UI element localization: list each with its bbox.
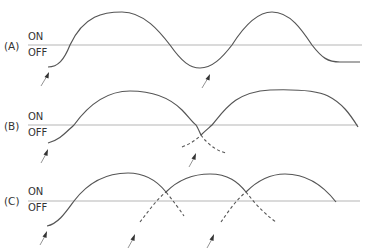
panel-c-wave-3-curve: [246, 174, 336, 202]
diagram-canvas: (A) ON OFF (B) ON OFF: [0, 0, 365, 252]
panel-c-arrow-2: [128, 234, 135, 248]
panel-b-on-label: ON: [28, 111, 43, 122]
panel-b-arrow-1: [41, 149, 48, 163]
arrow-head-icon: [210, 234, 215, 241]
panel-b-wave-1-dashed-tail: [201, 135, 226, 153]
arrow-head-icon: [192, 153, 197, 160]
panel-c-on-label: ON: [28, 186, 43, 197]
panel-c-label: (C): [4, 195, 20, 207]
panel-b-off-label: OFF: [28, 127, 48, 138]
arrow-head-icon: [44, 149, 49, 156]
panel-c-off-label: OFF: [28, 202, 48, 213]
diagram-figure: (A) ON OFF (B) ON OFF: [0, 0, 365, 252]
panel-a-wave-curve: [48, 12, 360, 68]
arrow-head-icon: [45, 72, 50, 79]
panel-c-wave-1-dashed-tail: [166, 192, 184, 216]
panel-a: (A) ON OFF: [4, 12, 362, 88]
panel-c: (C) ON OFF: [4, 173, 360, 248]
panel-b-wave-2-curve: [201, 90, 358, 135]
panel-a-label: (A): [4, 40, 19, 52]
panel-c-arrow-3: [207, 234, 214, 248]
panel-b-wave-2-dashed-rise: [182, 135, 201, 147]
panel-c-arrow-1: [40, 231, 47, 245]
panel-a-off-label: OFF: [28, 47, 48, 58]
arrow-head-icon: [131, 234, 136, 241]
panel-b-wave-1-curve: [48, 91, 201, 143]
panel-a-on-label: ON: [28, 31, 43, 42]
panel-b: (B) ON OFF: [4, 90, 358, 167]
panel-c-wave-2-dashed-tail: [246, 192, 276, 222]
panel-c-wave-1-curve: [47, 173, 166, 226]
panel-a-arrow-2: [202, 74, 210, 88]
panel-b-label: (B): [4, 120, 19, 132]
arrow-head-icon: [43, 231, 48, 238]
panel-a-arrow-1: [41, 72, 49, 86]
panel-b-arrow-2: [189, 153, 196, 167]
panel-c-wave-2-curve: [166, 174, 246, 192]
arrow-head-icon: [206, 74, 211, 81]
panel-c-wave-2-dashed-rise: [140, 192, 166, 222]
panel-c-wave-3-dashed-rise: [221, 192, 246, 222]
